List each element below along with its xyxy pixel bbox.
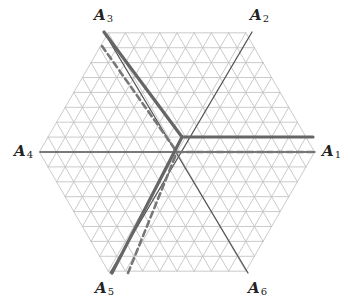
lattice-canvas bbox=[0, 0, 350, 307]
grid-line-diagonal bbox=[229, 137, 306, 271]
label-a4: A4 bbox=[14, 144, 33, 160]
label-a5-letter: A bbox=[95, 279, 107, 297]
hex-lattice-diagram: A1 A2 A3 A4 A5 A6 bbox=[0, 0, 350, 307]
grid-line-diagonal bbox=[194, 33, 289, 197]
label-a4-letter: A bbox=[14, 142, 26, 160]
grid-line-diagonal bbox=[48, 33, 125, 167]
label-a6-letter: A bbox=[248, 279, 260, 297]
grid-line-diagonal bbox=[82, 78, 194, 272]
label-a5: A5 bbox=[95, 281, 114, 297]
grid-line-diagonal bbox=[65, 107, 160, 271]
label-a2-sub: 2 bbox=[263, 13, 269, 24]
grid-line-diagonal bbox=[100, 33, 229, 256]
grid-line-diagonal bbox=[125, 33, 254, 256]
grid-line-diagonal bbox=[48, 137, 125, 271]
label-a2-letter: A bbox=[250, 6, 262, 24]
label-a5-sub: 5 bbox=[108, 286, 114, 297]
label-a1: A1 bbox=[322, 144, 341, 160]
grid-line-diagonal bbox=[125, 48, 254, 271]
grid-line-diagonal bbox=[65, 33, 160, 197]
label-a1-sub: 1 bbox=[335, 149, 341, 160]
label-a6: A6 bbox=[248, 281, 267, 297]
grid-line-diagonal bbox=[160, 78, 272, 272]
label-a3: A3 bbox=[94, 8, 113, 24]
dashed-path-upper bbox=[102, 46, 177, 152]
label-a1-letter: A bbox=[322, 142, 334, 160]
grid-line-diagonal bbox=[100, 48, 229, 271]
grid-line-diagonal bbox=[194, 107, 289, 271]
label-a4-sub: 4 bbox=[27, 149, 33, 160]
label-a3-sub: 3 bbox=[107, 13, 113, 24]
label-a2: A2 bbox=[250, 8, 269, 24]
dashed-paths bbox=[102, 46, 315, 273]
label-a6-sub: 6 bbox=[261, 286, 267, 297]
label-a3-letter: A bbox=[94, 6, 106, 24]
